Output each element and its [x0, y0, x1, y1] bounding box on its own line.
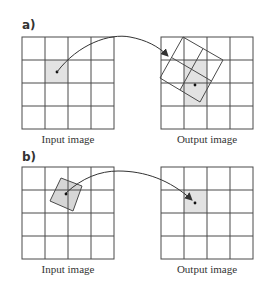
panel-a-mapping-arrow: [57, 36, 168, 72]
panel-b-mapping-arrow: [66, 171, 192, 200]
panel-a-input-grid: [22, 37, 114, 129]
panel-a: [22, 36, 253, 129]
panel-a-output-grid: [160, 37, 253, 129]
panel-b-output-shaded-pixel: [184, 190, 207, 213]
panel-b-input-point: [65, 193, 68, 196]
panel-b-output-point: [194, 202, 197, 205]
mapping-diagram: [0, 0, 275, 287]
panel-b-output-grid: [161, 167, 253, 259]
panel-b: [22, 167, 253, 259]
panel-a-output-point: [194, 84, 197, 87]
panel-b-input-grid: [22, 167, 114, 259]
